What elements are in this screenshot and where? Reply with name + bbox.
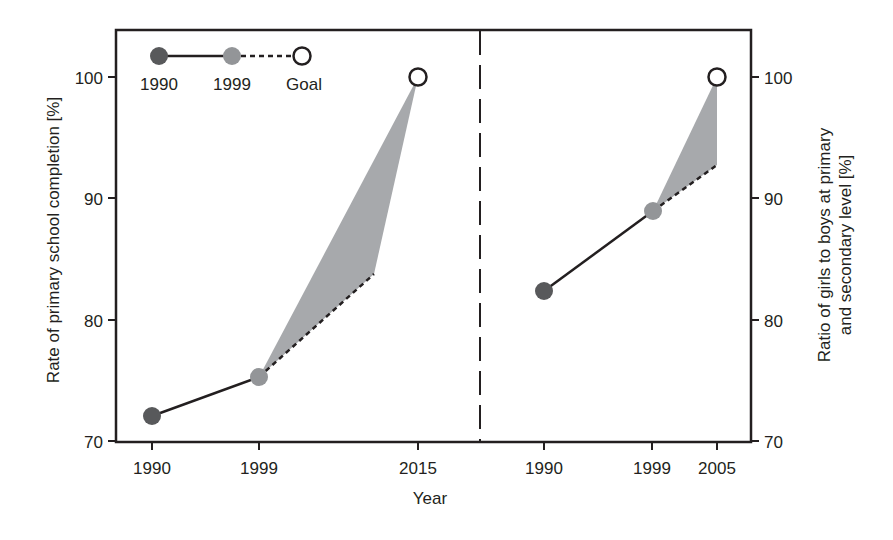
left-point-1990 xyxy=(143,407,161,425)
legend-goal-circle xyxy=(294,48,311,65)
x-axis: 1990 1999 2015 1990 1999 2005 Year xyxy=(133,442,736,508)
right-panel-series xyxy=(535,69,726,301)
right-y-axis-label-line1: Ratio of girls to boys at primary xyxy=(815,127,834,362)
xtick-right-2005: 2005 xyxy=(698,459,736,478)
xtick-left-1999: 1999 xyxy=(240,459,278,478)
right-y-axis-label-line2: and secondary level [%] xyxy=(836,155,855,336)
left-point-goal xyxy=(410,69,427,86)
x-axis-label: Year xyxy=(413,489,448,508)
xtick-right-1990: 1990 xyxy=(525,459,563,478)
right-point-goal xyxy=(709,69,726,86)
right-ytick-90: 90 xyxy=(764,190,783,209)
left-panel-series xyxy=(143,69,427,426)
legend-dot-1999 xyxy=(223,47,241,65)
left-actual-line xyxy=(152,377,259,416)
xtick-left-2015: 2015 xyxy=(399,459,437,478)
plot-frame xyxy=(116,30,751,442)
xtick-right-1999: 1999 xyxy=(633,459,671,478)
left-point-1999 xyxy=(250,368,268,386)
right-ytick-70: 70 xyxy=(764,433,783,452)
left-gap-shade xyxy=(259,77,418,377)
legend-dot-1990 xyxy=(150,47,168,65)
left-y-axis: 100 90 80 70 Rate of primary school comp… xyxy=(44,69,116,452)
legend-label-1990: 1990 xyxy=(140,75,178,94)
xtick-left-1990: 1990 xyxy=(133,459,171,478)
right-gap-shade xyxy=(653,77,717,211)
right-actual-line xyxy=(544,211,653,291)
right-point-1999 xyxy=(644,202,662,220)
right-ytick-100: 100 xyxy=(764,69,792,88)
right-y-axis: 100 90 80 70 Ratio of girls to boys at p… xyxy=(751,69,855,452)
legend-label-goal: Goal xyxy=(286,75,322,94)
left-ytick-90: 90 xyxy=(84,190,103,209)
left-ytick-70: 70 xyxy=(84,433,103,452)
left-ytick-100: 100 xyxy=(75,69,103,88)
legend: 1990 1999 Goal xyxy=(140,47,322,94)
right-point-1990 xyxy=(535,282,553,300)
left-y-axis-label: Rate of primary school completion [%] xyxy=(44,97,63,383)
chart: 100 90 80 70 Rate of primary school comp… xyxy=(0,0,893,540)
legend-label-1999: 1999 xyxy=(213,75,251,94)
right-ytick-80: 80 xyxy=(764,312,783,331)
left-ytick-80: 80 xyxy=(84,312,103,331)
